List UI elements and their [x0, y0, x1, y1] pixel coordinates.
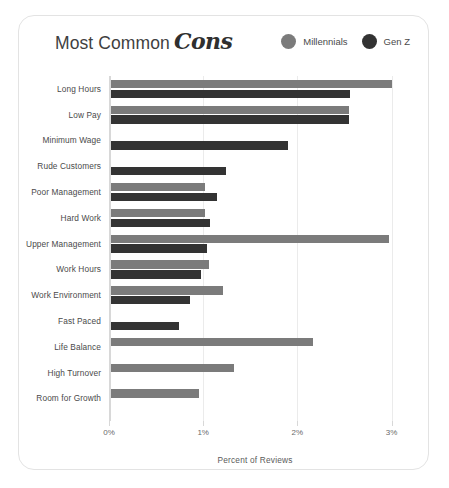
bar-genz-work-hours[interactable]: [111, 270, 201, 278]
x-tick-3: [392, 421, 393, 426]
chart-row: Work Hours: [19, 257, 430, 283]
category-label-high-turnover: High Turnover: [19, 360, 101, 386]
category-label-work-environment: Work Environment: [19, 282, 101, 308]
bar-millennials-work-hours[interactable]: [111, 260, 209, 268]
bar-group: [111, 386, 401, 412]
legend-swatch-millennials: [281, 34, 296, 49]
bar-group: [111, 205, 401, 231]
x-tick-0: [109, 421, 110, 426]
x-tick-label-1: 1%: [197, 428, 209, 437]
legend-item-millennials[interactable]: Millennials: [281, 34, 347, 49]
bar-millennials-hard-work[interactable]: [111, 209, 205, 217]
category-label-long-hours: Long Hours: [19, 76, 101, 102]
bar-millennials-long-hours[interactable]: [111, 80, 392, 88]
bar-millennials-poor-management[interactable]: [111, 183, 205, 191]
bar-group: [111, 282, 401, 308]
x-tick-2: [297, 421, 298, 426]
x-tick-label-3: 3%: [386, 428, 398, 437]
bar-group: [111, 179, 401, 205]
bar-rows: Long HoursLow PayMinimum WageRude Custom…: [19, 76, 430, 421]
chart-header: Most CommonCons Millennials Gen Z: [19, 16, 428, 72]
chart-row: Hard Work: [19, 205, 430, 231]
bar-group: [111, 257, 401, 283]
title-accent-text: Cons: [174, 28, 233, 54]
bar-group: [111, 102, 401, 128]
bar-genz-long-hours[interactable]: [111, 90, 350, 98]
legend-item-genz[interactable]: Gen Z: [362, 34, 410, 49]
category-label-poor-management: Poor Management: [19, 179, 101, 205]
bar-genz-fast-paced[interactable]: [111, 322, 179, 330]
chart-row: Room for Growth: [19, 386, 430, 412]
bar-group: [111, 153, 401, 179]
legend-swatch-genz: [362, 34, 377, 49]
bar-millennials-high-turnover[interactable]: [111, 364, 234, 372]
x-axis: 0%1%2%3%: [109, 421, 401, 443]
plot-area: Long HoursLow PayMinimum WageRude Custom…: [19, 72, 430, 472]
bar-millennials-work-environment[interactable]: [111, 286, 223, 294]
chart-row: Poor Management: [19, 179, 430, 205]
bar-group: [111, 308, 401, 334]
chart-row: Life Balance: [19, 334, 430, 360]
title-main-text: Most Common: [55, 33, 170, 53]
x-axis-title: Percent of Reviews: [109, 455, 401, 465]
bar-millennials-upper-management[interactable]: [111, 235, 389, 243]
chart-row: High Turnover: [19, 360, 430, 386]
bar-genz-upper-management[interactable]: [111, 244, 207, 252]
category-label-low-pay: Low Pay: [19, 102, 101, 128]
chart-row: Rude Customers: [19, 153, 430, 179]
legend-label-genz: Gen Z: [384, 36, 410, 47]
chart-legend: Millennials Gen Z: [281, 34, 410, 49]
bar-genz-work-environment[interactable]: [111, 296, 190, 304]
bar-genz-hard-work[interactable]: [111, 219, 210, 227]
category-label-room-for-growth: Room for Growth: [19, 386, 101, 412]
chart-row: Work Environment: [19, 282, 430, 308]
chart-row: Upper Management: [19, 231, 430, 257]
bar-millennials-life-balance[interactable]: [111, 338, 313, 346]
category-label-fast-paced: Fast Paced: [19, 308, 101, 334]
legend-label-millennials: Millennials: [303, 36, 347, 47]
bar-group: [111, 128, 401, 154]
bar-genz-poor-management[interactable]: [111, 193, 217, 201]
bar-group: [111, 334, 401, 360]
bar-group: [111, 76, 401, 102]
bar-genz-minimum-wage[interactable]: [111, 141, 288, 149]
category-label-work-hours: Work Hours: [19, 257, 101, 283]
x-tick-label-0: 0%: [103, 428, 115, 437]
x-tick-label-2: 2%: [292, 428, 304, 437]
chart-card: Most CommonCons Millennials Gen Z Long H…: [18, 15, 429, 470]
chart-row: Long Hours: [19, 76, 430, 102]
bar-genz-low-pay[interactable]: [111, 115, 349, 123]
category-label-hard-work: Hard Work: [19, 205, 101, 231]
bar-group: [111, 360, 401, 386]
category-label-rude-customers: Rude Customers: [19, 153, 101, 179]
bar-millennials-room-for-growth[interactable]: [111, 389, 199, 397]
bar-millennials-low-pay[interactable]: [111, 106, 349, 114]
x-tick-1: [203, 421, 204, 426]
chart-row: Minimum Wage: [19, 128, 430, 154]
page-title: Most CommonCons: [55, 28, 232, 54]
category-label-upper-management: Upper Management: [19, 231, 101, 257]
category-label-life-balance: Life Balance: [19, 334, 101, 360]
bar-group: [111, 231, 401, 257]
chart-row: Fast Paced: [19, 308, 430, 334]
category-label-minimum-wage: Minimum Wage: [19, 128, 101, 154]
bar-genz-rude-customers[interactable]: [111, 167, 226, 175]
chart-row: Low Pay: [19, 102, 430, 128]
